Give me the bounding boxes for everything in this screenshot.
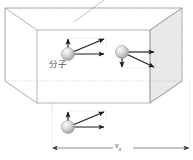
vx-subscript: x: [119, 146, 122, 152]
top-leader-line: [74, 0, 104, 22]
molecule-2: [116, 46, 155, 68]
molecule-2-sphere: [116, 46, 129, 59]
box-shaded-right-face: [150, 8, 182, 103]
physics-diagram-figure: 分子 vx: [0, 0, 193, 160]
molecule-label: 分子: [49, 60, 68, 69]
molecule-3: [62, 112, 105, 134]
vx-axis-label: vx: [115, 142, 122, 152]
molecule-1: [62, 39, 105, 61]
molecule-3-sphere: [62, 121, 75, 134]
diagram-canvas: [0, 0, 193, 160]
